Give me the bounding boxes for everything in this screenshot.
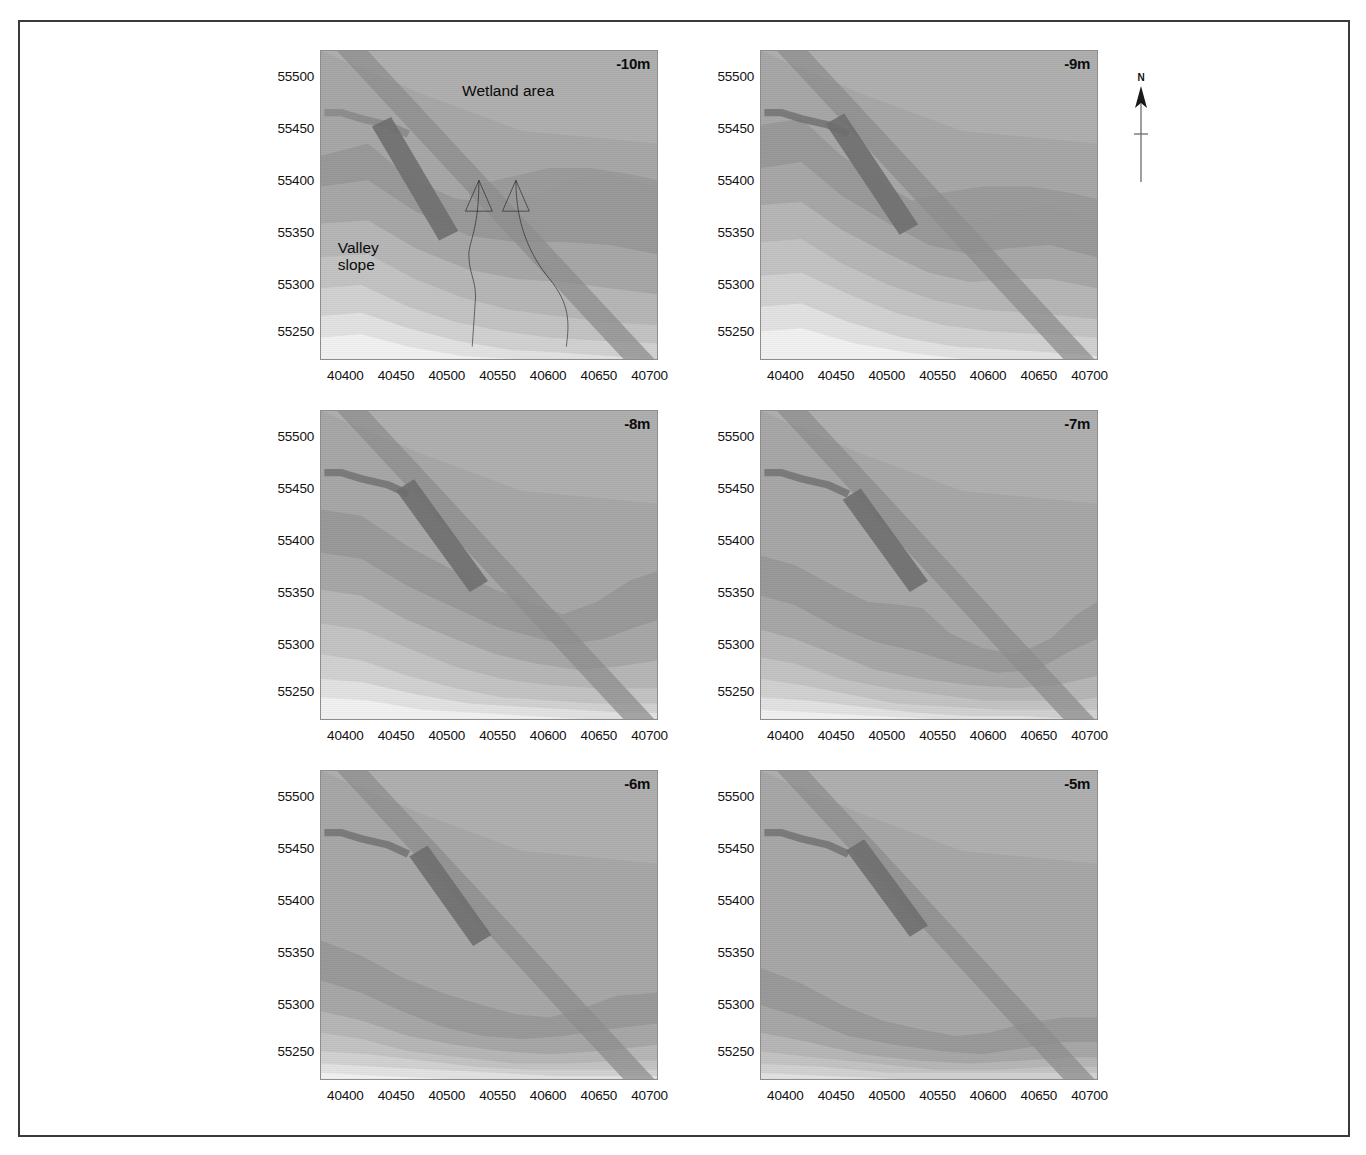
x-axis-tick-label: 40450	[818, 1088, 855, 1103]
map-raster	[761, 51, 1097, 359]
x-axis-tick-label: 40700	[631, 728, 668, 743]
leader-line	[469, 180, 479, 346]
x-axis-tick-label: 40550	[919, 368, 956, 383]
linear-anomaly-layer	[761, 411, 1097, 719]
x-axis-tick-label: 40500	[428, 728, 465, 743]
y-axis-labels: 555005545055400553505530055250	[698, 410, 760, 720]
north-arrow-label: N	[1118, 72, 1164, 83]
x-axis-tick-label: 40700	[631, 1088, 668, 1103]
north-arrow-glyph	[1118, 72, 1164, 192]
valley-slope-label: Valley slope	[338, 239, 379, 274]
x-axis-tick-label: 40650	[581, 1088, 618, 1103]
y-axis-tick-label: 55500	[277, 429, 314, 444]
linear-anomaly-layer	[321, 411, 657, 719]
anomaly-spur	[764, 473, 848, 495]
linear-anomaly-track	[341, 771, 650, 1079]
anomaly-spur	[324, 833, 408, 855]
y-axis-tick-label: 55350	[717, 585, 754, 600]
x-axis-tick-label: 40650	[581, 368, 618, 383]
y-axis-tick-label: 55300	[717, 637, 754, 652]
y-axis-tick-label: 55450	[717, 121, 754, 136]
depth-label: -9m	[1064, 55, 1090, 72]
map-raster	[321, 411, 657, 719]
x-axis-tick-label: 40650	[1021, 728, 1058, 743]
depth-slice-map[interactable]: -9m	[760, 50, 1098, 360]
linear-anomaly-layer	[761, 51, 1097, 359]
y-axis-tick-label: 55450	[277, 841, 314, 856]
y-axis-tick-label: 55250	[277, 683, 314, 698]
x-axis-tick-label: 40400	[327, 728, 364, 743]
x-axis-tick-label: 40600	[530, 1088, 567, 1103]
figure-outer-frame: N 555005545055400553505530055250Wetland …	[18, 20, 1350, 1137]
wetland-area-label: Wetland area	[462, 82, 554, 99]
x-axis-tick-label: 40450	[378, 1088, 415, 1103]
y-axis-tick-label: 55350	[277, 225, 314, 240]
x-axis-tick-label: 40450	[378, 728, 415, 743]
x-axis-tick-label: 40600	[970, 368, 1007, 383]
linear-anomaly-layer	[321, 771, 657, 1079]
x-axis-tick-label: 40700	[1071, 728, 1108, 743]
y-axis-tick-label: 55350	[717, 225, 754, 240]
y-axis-tick-label: 55500	[717, 69, 754, 84]
x-axis-tick-label: 40550	[479, 368, 516, 383]
linear-anomaly-track	[781, 51, 1090, 359]
y-axis-tick-label: 55250	[277, 1043, 314, 1058]
x-axis-tick-label: 40600	[970, 1088, 1007, 1103]
y-axis-tick-label: 55450	[717, 481, 754, 496]
y-axis-tick-label: 55500	[717, 429, 754, 444]
x-axis-tick-label: 40400	[767, 728, 804, 743]
map-panel-minus9m: 555005545055400553505530055250-9m4040040…	[698, 50, 1098, 394]
y-axis-labels: 555005545055400553505530055250	[698, 770, 760, 1080]
x-axis-tick-label: 40700	[1071, 1088, 1108, 1103]
x-axis-tick-label: 40450	[818, 728, 855, 743]
x-axis-tick-label: 40650	[1021, 1088, 1058, 1103]
x-axis-tick-label: 40450	[378, 368, 415, 383]
x-axis-tick-label: 40700	[631, 368, 668, 383]
map-raster	[761, 771, 1097, 1079]
linear-anomaly-track	[781, 771, 1090, 1079]
x-axis-tick-label: 40500	[428, 368, 465, 383]
y-axis-tick-label: 55250	[277, 323, 314, 338]
y-axis-tick-label: 55350	[277, 585, 314, 600]
depth-label: -5m	[1064, 775, 1090, 792]
x-axis-tick-label: 40600	[970, 728, 1007, 743]
map-panel-minus5m: 555005545055400553505530055250-5m4040040…	[698, 770, 1098, 1114]
x-axis-tick-label: 40500	[428, 1088, 465, 1103]
y-axis-labels: 555005545055400553505530055250	[698, 50, 760, 360]
map-panel-minus8m: 555005545055400553505530055250-8m4040040…	[258, 410, 658, 754]
depth-slice-map[interactable]: -7m	[760, 410, 1098, 720]
depth-slice-map[interactable]: -8m	[320, 410, 658, 720]
y-axis-tick-label: 55250	[717, 323, 754, 338]
anomaly-spur	[324, 473, 408, 495]
y-axis-tick-label: 55450	[277, 121, 314, 136]
y-axis-tick-label: 55300	[277, 997, 314, 1012]
depth-slice-map[interactable]: -6m	[320, 770, 658, 1080]
x-axis-tick-label: 40400	[327, 1088, 364, 1103]
y-axis-tick-label: 55450	[277, 481, 314, 496]
x-axis-tick-label: 40550	[479, 728, 516, 743]
depth-label: -7m	[1064, 415, 1090, 432]
y-axis-labels: 555005545055400553505530055250	[258, 50, 320, 360]
x-axis-tick-label: 40550	[479, 1088, 516, 1103]
y-axis-tick-label: 55500	[277, 789, 314, 804]
linear-anomaly-track	[781, 411, 1090, 719]
x-axis-tick-label: 40450	[818, 368, 855, 383]
x-axis-tick-label: 40700	[1071, 368, 1108, 383]
depth-slice-map[interactable]: Wetland areaValley slope-10m	[320, 50, 658, 360]
y-axis-tick-label: 55500	[277, 69, 314, 84]
depth-slice-map[interactable]: -5m	[760, 770, 1098, 1080]
x-axis-tick-label: 40500	[868, 368, 905, 383]
y-axis-labels: 555005545055400553505530055250	[258, 770, 320, 1080]
y-axis-tick-label: 55400	[277, 893, 314, 908]
depth-label: -6m	[624, 775, 650, 792]
y-axis-tick-label: 55400	[717, 533, 754, 548]
x-axis-tick-label: 40550	[919, 728, 956, 743]
y-axis-tick-label: 55250	[717, 683, 754, 698]
y-axis-tick-label: 55400	[277, 533, 314, 548]
x-axis-tick-label: 40500	[868, 1088, 905, 1103]
north-arrow: N	[1118, 72, 1164, 192]
y-axis-tick-label: 55300	[277, 277, 314, 292]
y-axis-tick-label: 55450	[717, 841, 754, 856]
y-axis-tick-label: 55400	[277, 173, 314, 188]
linear-anomaly-track	[341, 411, 650, 719]
